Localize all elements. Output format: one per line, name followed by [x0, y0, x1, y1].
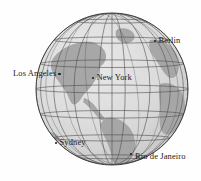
- city-label-berlin: Berlin: [159, 36, 181, 45]
- new-york-dot-icon: [92, 77, 94, 79]
- los-angeles-dot-icon: [58, 73, 60, 75]
- sydney-dot-icon: [55, 142, 57, 144]
- city-marker-sydney[interactable]: Sydney: [55, 138, 86, 147]
- rio-de-janeiro-dot-icon: [130, 153, 132, 155]
- city-marker-rio-de-janeiro[interactable]: Rio de Janeiro: [130, 152, 186, 161]
- city-label-sydney: Sydney: [60, 138, 86, 147]
- city-label-new-york: New York: [97, 73, 132, 82]
- berlin-dot-icon: [154, 40, 156, 42]
- city-marker-berlin[interactable]: Berlin: [154, 36, 180, 45]
- city-label-rio-de-janeiro: Rio de Janeiro: [135, 152, 186, 161]
- city-label-los-angeles: Los Angeles: [13, 69, 56, 78]
- globe-figure: Berlin Los Angeles New York Sydney Rio d…: [0, 0, 201, 181]
- city-marker-new-york[interactable]: New York: [92, 73, 132, 82]
- city-marker-los-angeles[interactable]: Los Angeles: [13, 69, 61, 78]
